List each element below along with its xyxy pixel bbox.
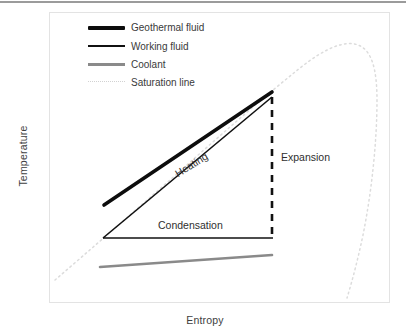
legend-swatch-geothermal-fluid bbox=[88, 26, 125, 30]
figure-container: Geothermal fluid Working fluid Coolant S… bbox=[0, 0, 406, 333]
legend-item-working-fluid: Working fluid bbox=[88, 39, 248, 55]
legend-label-geothermal-fluid: Geothermal fluid bbox=[131, 20, 204, 35]
geothermal-fluid-line bbox=[104, 92, 272, 205]
legend-label-saturation-line: Saturation line bbox=[131, 75, 195, 90]
annotation-condensation: Condensation bbox=[158, 219, 223, 231]
legend-label-coolant: Coolant bbox=[131, 57, 165, 72]
legend-item-geothermal-fluid: Geothermal fluid bbox=[88, 20, 248, 36]
annotation-expansion: Expansion bbox=[281, 151, 330, 163]
coolant-line bbox=[100, 255, 272, 267]
legend-item-coolant: Coolant bbox=[88, 57, 248, 73]
legend-swatch-working-fluid bbox=[88, 45, 125, 47]
legend-label-working-fluid: Working fluid bbox=[131, 39, 189, 54]
legend-item-saturation-line: Saturation line bbox=[88, 75, 248, 91]
legend-swatch-saturation-line bbox=[88, 81, 125, 82]
x-axis-label: Entropy bbox=[155, 314, 255, 326]
y-axis-label: Temperature bbox=[17, 116, 29, 196]
legend-swatch-coolant bbox=[88, 63, 125, 66]
